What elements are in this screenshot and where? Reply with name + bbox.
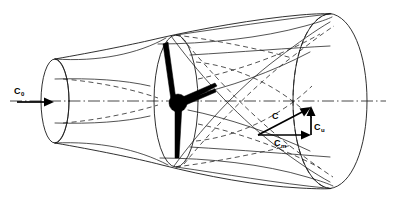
meridional-arrow-head [301, 131, 311, 140]
impeller-rotor [163, 42, 217, 158]
velocity-triangle [258, 106, 316, 140]
impeller-hub [169, 94, 187, 112]
hidden-stream-lower-inlet [63, 105, 158, 123]
label-absolute-velocity: C [272, 111, 279, 121]
inlet-back-rim-upper [55, 59, 69, 101]
label-tangential-velocity: C [314, 122, 321, 132]
label-meridional-velocity-subscript: m [281, 143, 286, 149]
upper-outer-contour [55, 14, 331, 59]
diffuser-generator-bottom [176, 167, 330, 189]
diffuser-generator-lower-mid [190, 147, 330, 157]
streamlines-hidden [176, 26, 334, 177]
label-tangential-velocity-subscript: u [321, 127, 325, 133]
label-inlet-velocity-subscript: 0 [21, 91, 25, 97]
inlet-arrow-head [44, 98, 54, 107]
inlet-back-rim-lower [55, 101, 69, 143]
hidden-ring-trace-lower [176, 145, 292, 167]
inlet-wall-generator-lower [55, 116, 150, 123]
turbomachine-diagram: C 0 C C m C u [0, 0, 394, 202]
blade-lower [175, 105, 182, 158]
label-meridional-velocity: C [274, 138, 281, 148]
diffuser-generator-upper-mid [190, 46, 330, 55]
diagram-canvas: C 0 C C m C u [0, 0, 394, 202]
streamline-back-d [198, 124, 320, 168]
streamline-hub-lower [188, 110, 310, 151]
hidden-cross-arc-b [196, 86, 312, 141]
hidden-stream-upper-inlet [63, 79, 158, 98]
absolute-arrow-shaft [258, 111, 304, 135]
label-inlet-velocity: C [14, 86, 21, 96]
lower-outer-contour [55, 143, 331, 189]
inlet-velocity-vector [17, 98, 54, 107]
inlet-wall-generator-upper [55, 79, 150, 86]
diffuser-generator-top [176, 14, 330, 35]
